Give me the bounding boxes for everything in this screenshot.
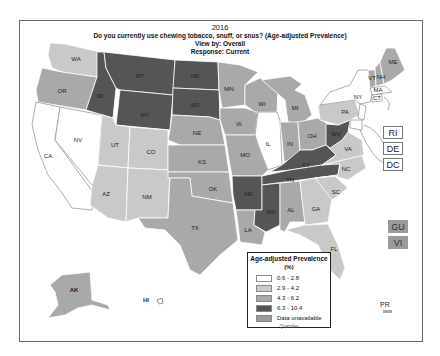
label-OK: OK [209,186,218,192]
label-AZ: AZ [102,191,110,197]
label-UT: UT [111,142,119,148]
state-AK[interactable] [48,272,110,318]
label-MA: MA [374,87,383,93]
label-ME: ME [389,59,398,65]
legend-item: 4.3 - 6.2 [256,293,330,303]
label-MO: MO [240,152,250,158]
label-NE: NE [193,130,201,136]
legend-label: 4.3 - 6.2 [277,295,299,301]
territory-box-ri[interactable]: RI [383,126,403,139]
legend-swatch [256,315,272,322]
label-MN: MN [224,86,233,92]
label-CT: CT [373,95,381,101]
label-OR: OR [58,88,68,94]
label-TX: TX [191,225,199,231]
label-IL: IL [265,141,271,147]
state-HI[interactable] [157,298,163,304]
label-PA: PA [341,109,349,115]
legend-swatch [256,285,272,292]
label-NC: NC [342,166,351,172]
label-NH: NH [377,74,386,80]
label-AR: AR [244,191,253,197]
label-WA: WA [71,56,80,62]
territory-shape-pr[interactable] [383,310,392,313]
label-AL: AL [287,207,295,213]
state-NJ[interactable] [358,104,366,120]
label-NM: NM [142,194,151,200]
label-CA: CA [44,153,52,159]
legend-label: 6.3 - 10.4 [277,305,302,311]
label-SD: SD [191,102,200,108]
label-ND: ND [191,73,200,79]
de-leader-line [364,125,384,145]
label-FL: FL [330,246,338,252]
us-choropleth-map: WA OR CA NV ID MT WY ND SD NE UT CO AZ N… [0,0,440,356]
label-GA: GA [312,206,321,212]
legend-item: 2.9 - 4.2 [256,283,330,293]
legend-item: Data unavailable [256,313,330,323]
label-VA: VA [344,146,352,152]
label-NY: NY [354,94,362,100]
label-AK: AK [70,287,79,293]
map-legend: Age-adjusted Prevalence (%) 0.6 - 2.8 2.… [247,252,331,328]
label-OH: OH [308,133,317,139]
state-MD[interactable] [350,120,362,130]
label-SC: SC [332,189,341,195]
territory-box-dc[interactable]: DC [383,158,403,171]
label-MS: MS [267,209,276,215]
dc-leader-line [360,130,384,163]
label-MI: MI [292,105,299,111]
ri-leader-line [384,97,389,110]
label-IN: IN [287,141,293,147]
legend-swatch [256,275,272,282]
label-CO: CO [147,149,156,155]
legend-swatch [256,305,272,312]
label-MT: MT [136,73,145,79]
state-NY[interactable] [320,70,372,105]
territory-box-de[interactable]: DE [383,142,403,155]
label-TN: TN [286,177,294,183]
legend-label: 0.6 - 2.8 [277,275,299,281]
label-WV: WV [331,131,341,137]
legend-footer: Quantiles [248,324,330,329]
legend-item: 0.6 - 2.8 [256,273,330,283]
label-KY: KY [302,162,310,168]
legend-title: Age-adjusted Prevalence [248,255,330,262]
label-IA: IA [236,121,242,127]
legend-swatch [256,295,272,302]
legend-unit: (%) [248,264,330,270]
label-WY: WY [140,112,150,118]
territory-box-vi[interactable]: VI [388,236,408,249]
label-LA: LA [244,227,251,233]
legend-item: 6.3 - 10.4 [256,303,330,313]
label-WI: WI [258,101,266,107]
label-KS: KS [198,159,206,165]
label-HI: HI [143,297,149,303]
legend-label: Data unavailable [277,315,322,321]
territory-label-pr: PR [380,301,390,308]
label-NV: NV [74,137,82,143]
state-WY[interactable] [116,90,173,130]
territory-box-gu[interactable]: GU [388,220,408,233]
label-ID: ID [97,93,104,99]
label-VT: VT [368,75,376,81]
legend-label: 2.9 - 4.2 [277,285,299,291]
